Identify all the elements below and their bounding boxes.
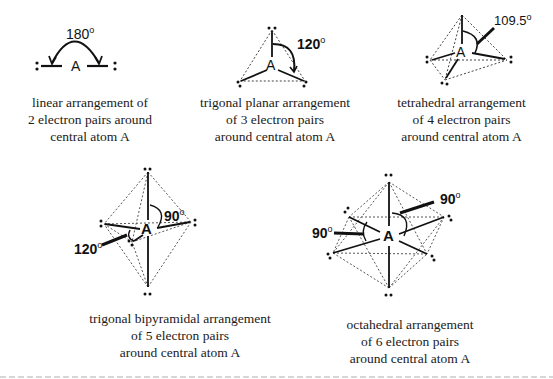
- angle-label-120: 120o: [74, 240, 102, 257]
- angle-label-90: 90o: [164, 207, 185, 224]
- caption-trigonal-planar: trigonal planar arrangement of 3 electro…: [180, 94, 370, 145]
- angle-label-109-5: 109.5o: [494, 12, 532, 28]
- caption-octahedral: octahedral arrangement of 6 electron pai…: [300, 316, 520, 367]
- atom-label: A: [383, 227, 394, 244]
- angle-label-90-upper: 90o: [440, 190, 461, 207]
- angle-label-120: 120o: [297, 35, 325, 52]
- angle-label-90-left: 90o: [312, 224, 333, 241]
- atom-label: A: [266, 57, 275, 73]
- caption-tetrahedral: tetrahedral arrangement of 4 electron pa…: [370, 94, 553, 145]
- octahedral-geometry-diagram: [300, 140, 520, 310]
- trigonal-planar-geometry-diagram: [180, 0, 370, 90]
- cutoff-figure-caption: [0, 372, 553, 379]
- panel-octahedral: A 90o 90o: [300, 140, 520, 310]
- angle-label-180: 180o: [66, 25, 94, 42]
- caption-trigonal-bipyramidal: trigonal bipyramidal arrangement of 5 el…: [60, 310, 300, 361]
- panel-trigonal-bipyramidal: A 90o 120o: [80, 140, 320, 280]
- atom-label: A: [456, 44, 465, 60]
- atom-label: A: [71, 58, 80, 74]
- atom-label: A: [141, 220, 152, 237]
- linear-geometry-diagram: [0, 0, 180, 90]
- caption-linear: linear arrangement of 2 electron pairs a…: [0, 94, 180, 145]
- trigonal-bipyramidal-geometry-diagram: [80, 140, 320, 300]
